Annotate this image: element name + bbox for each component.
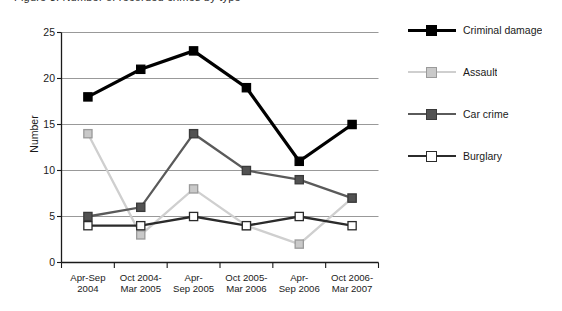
data-point bbox=[295, 157, 303, 165]
data-point bbox=[348, 194, 356, 202]
data-point bbox=[84, 212, 92, 220]
legend-item-burglary[interactable]: Burglary bbox=[408, 148, 562, 164]
legend-key-icon bbox=[408, 149, 456, 163]
data-point bbox=[137, 222, 145, 230]
chart-legend: Criminal damageAssaultCar crimeBurglary bbox=[408, 22, 562, 162]
legend-item-label: Assault bbox=[456, 66, 497, 78]
data-point bbox=[137, 203, 145, 211]
data-point bbox=[295, 240, 303, 248]
data-point bbox=[84, 130, 92, 138]
legend-item-label: Car crime bbox=[456, 108, 509, 120]
legend-marker-swatch bbox=[426, 151, 437, 162]
legend-marker-swatch bbox=[426, 25, 437, 36]
legend-marker-swatch bbox=[426, 67, 437, 78]
axis-lines bbox=[62, 33, 379, 263]
data-point bbox=[137, 231, 145, 239]
y-tick-label: 15 bbox=[21, 119, 55, 129]
y-tick-label: 0 bbox=[21, 257, 55, 267]
data-point bbox=[295, 176, 303, 184]
legend-key-icon bbox=[408, 23, 456, 37]
y-tick-label: 10 bbox=[21, 165, 55, 175]
y-axis-ticks bbox=[57, 33, 62, 263]
data-point bbox=[84, 93, 92, 101]
legend-item-car-crime[interactable]: Car crime bbox=[408, 106, 562, 122]
data-point bbox=[84, 222, 92, 230]
x-tick-label: Oct 2006-Mar 2007 bbox=[313, 272, 391, 295]
data-point bbox=[137, 65, 145, 73]
legend-key-icon bbox=[408, 65, 456, 79]
data-point bbox=[189, 185, 197, 193]
data-point bbox=[189, 47, 197, 55]
line-chart-figure: Number 0510152025 Apr-Sep2004Oct 2004-Ma… bbox=[0, 0, 562, 311]
data-point bbox=[295, 212, 303, 220]
data-series-layer bbox=[84, 47, 356, 248]
data-point bbox=[189, 212, 197, 220]
series-line-criminal-damage bbox=[88, 51, 352, 161]
y-tick-label: 20 bbox=[21, 73, 55, 83]
data-point bbox=[242, 222, 250, 230]
series-line-car-crime bbox=[88, 134, 352, 217]
legend-key-icon bbox=[408, 107, 456, 121]
legend-item-assault[interactable]: Assault bbox=[408, 64, 562, 80]
series-line-burglary bbox=[88, 217, 352, 226]
data-point bbox=[242, 166, 250, 174]
data-point bbox=[189, 130, 197, 138]
x-axis-ticks bbox=[62, 263, 379, 269]
data-point bbox=[348, 222, 356, 230]
legend-marker-swatch bbox=[426, 109, 437, 120]
y-tick-label: 25 bbox=[21, 27, 55, 37]
legend-item-criminal-damage[interactable]: Criminal damage bbox=[408, 22, 562, 38]
data-point bbox=[348, 120, 356, 128]
data-point bbox=[242, 84, 250, 92]
legend-item-label: Burglary bbox=[456, 150, 502, 162]
gridlines bbox=[62, 33, 379, 217]
legend-item-label: Criminal damage bbox=[456, 24, 542, 36]
y-tick-label: 5 bbox=[21, 211, 55, 221]
